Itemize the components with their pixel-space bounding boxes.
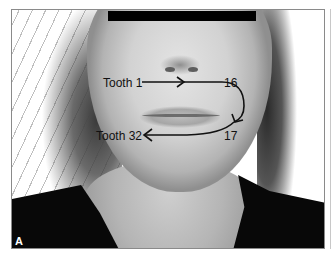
- label-tooth-17: 17: [224, 130, 237, 142]
- label-tooth-1: Tooth 1: [103, 77, 142, 89]
- clinical-photo-figure: Tooth 1 16 17 Tooth 32 A: [11, 9, 325, 249]
- panel-letter: A: [15, 236, 23, 247]
- lower-arch-arrow-path: [144, 122, 234, 135]
- label-tooth-16: 16: [224, 77, 237, 89]
- label-tooth-32: Tooth 32: [96, 130, 142, 142]
- page-edge-rule: [330, 9, 331, 249]
- tooth-numbering-arrows: [12, 10, 325, 249]
